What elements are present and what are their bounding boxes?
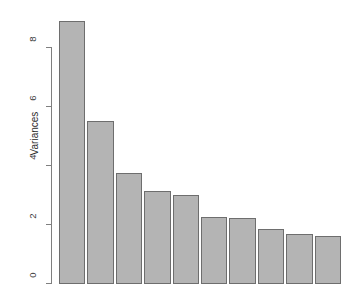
bar — [87, 121, 113, 284]
bar — [229, 218, 255, 284]
bars-layer — [0, 0, 362, 302]
bar — [201, 217, 227, 284]
bar — [59, 21, 85, 284]
bar — [315, 236, 341, 284]
bar — [173, 195, 199, 284]
bar — [116, 173, 142, 284]
bar — [258, 229, 284, 284]
bar — [144, 191, 170, 284]
bar — [286, 234, 312, 284]
scree-plot-figure: 02468 Variances — [0, 0, 362, 302]
